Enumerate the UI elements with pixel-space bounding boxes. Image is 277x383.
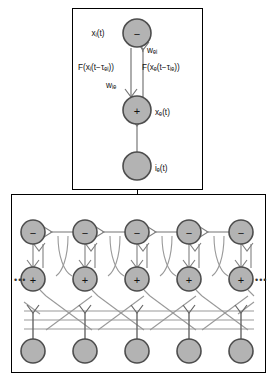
node-input-5	[229, 339, 253, 363]
node-symbol-plus: +	[30, 274, 36, 286]
label-weight-left: wᵢₑ	[105, 81, 116, 90]
node-excitatory-4: +	[177, 267, 201, 291]
node-inhibitory-4: −	[177, 220, 201, 244]
node-excitatory-5: +	[229, 267, 253, 291]
figure-canvas: − + xᵢ(t) xₑ(t) iₑ(t) F(xᵢ(t−τₑᵢ)) F(xₑ(…	[0, 0, 277, 383]
label-left-delay: F(xᵢ(t−τₑᵢ))	[78, 63, 114, 72]
node-inhibitory-5: −	[229, 220, 253, 244]
node-excitatory-3: +	[125, 267, 149, 291]
label-right-delay: F(xₑ(t−τᵢₑ))	[142, 63, 180, 72]
node-symbol-minus: −	[134, 28, 140, 40]
ellipsis-right: •••	[255, 275, 267, 285]
node-input-top	[123, 152, 151, 180]
node-symbol-minus: −	[134, 227, 140, 239]
node-symbol-plus: +	[186, 274, 192, 286]
node-symbol-plus: +	[134, 274, 140, 286]
node-symbol-minus: −	[82, 227, 88, 239]
node-excitatory-2: +	[73, 267, 97, 291]
node-symbol-minus: −	[186, 227, 192, 239]
label-weight-right: wₑᵢ	[146, 46, 157, 55]
node-input-3	[125, 339, 149, 363]
node-inhibitory-3: −	[125, 220, 149, 244]
node-input-2	[73, 339, 97, 363]
node-symbol-minus: −	[30, 227, 36, 239]
label-xe: xₑ(t)	[155, 108, 170, 117]
node-inhibitory-1: −	[21, 220, 45, 244]
node-inhibitory-top: −	[123, 19, 151, 47]
node-input-4	[177, 339, 201, 363]
ellipsis-left: •••	[14, 275, 26, 285]
label-xi: xᵢ(t)	[91, 29, 104, 38]
node-symbol-plus: +	[82, 274, 88, 286]
label-ie: iₑ(t)	[155, 164, 168, 173]
node-symbol-plus: +	[238, 274, 244, 286]
node-input-1	[21, 339, 45, 363]
node-symbol-minus: −	[238, 227, 244, 239]
node-symbol-plus: +	[134, 105, 140, 117]
node-excitatory-top: +	[123, 96, 151, 124]
node-inhibitory-2: −	[73, 220, 97, 244]
